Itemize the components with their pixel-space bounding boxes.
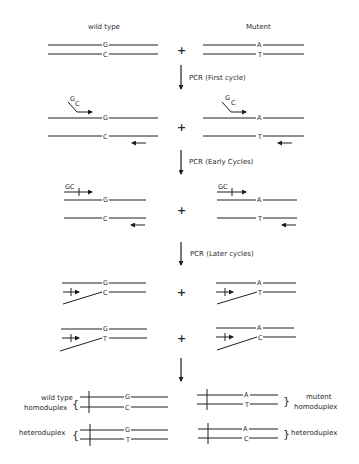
wt-heteroduplex-label: heteroduplex (19, 429, 65, 437)
mutant-homoduplex-label-line2: homoduplex (294, 403, 337, 411)
row5-mutant-duplex: A C (216, 324, 296, 350)
base-label: C (103, 133, 108, 141)
plus-sign: + (177, 286, 186, 299)
mismatch-primer-arrow-icon (68, 102, 92, 112)
base-label: T (125, 436, 130, 444)
primer-tail-bases: GC (218, 183, 228, 191)
step-label-later-cycles: PCR (Later cycles) (190, 250, 254, 258)
base-label: C (244, 435, 249, 443)
base-label: A (257, 41, 262, 49)
row4-mutant-duplex: A T (216, 279, 296, 304)
base-label: C (258, 334, 263, 342)
base-label: G (125, 426, 130, 434)
wt-homoduplex-label-line2: homoduplex (24, 404, 67, 412)
base-label: G (103, 41, 108, 49)
row4-wild-type-duplex: G C (62, 279, 146, 304)
wt-homoduplex-label-line1: wild type (41, 394, 73, 402)
mutant-header: Mutent (246, 23, 271, 31)
row1-wild-type-duplex: G C (48, 41, 158, 59)
base-label: T (257, 289, 262, 297)
base-label: A (257, 196, 262, 204)
row1-mutant-duplex: A T (203, 41, 304, 59)
plus-sign: + (177, 332, 186, 345)
base-label: G (103, 325, 108, 333)
plus-sign: + (177, 44, 186, 57)
row2-mutant-duplex: G C A T (203, 94, 304, 143)
base-label: C (103, 51, 108, 59)
row3-wild-type-duplex: GC G C (64, 183, 146, 225)
row3-mutant-duplex: GC A T (217, 183, 297, 225)
plus-sign: + (177, 204, 186, 217)
base-label: A (243, 425, 248, 433)
primer-tail-base: C (231, 99, 236, 107)
base-label: T (244, 401, 249, 409)
left-brace: { (72, 398, 79, 411)
base-label: A (257, 279, 262, 287)
left-brace: { (72, 429, 79, 442)
primer-tail-base: C (75, 100, 80, 108)
wild-type-header: wild type (88, 23, 120, 31)
mutant-heteroduplex: A C } heteroduplex (198, 423, 337, 444)
mutant-homoduplex: A T } mutent homoduplex (197, 389, 337, 411)
mutant-heteroduplex-label: heteroduplex (291, 429, 337, 437)
base-label: G (125, 393, 130, 401)
step-label-first-cycle: PCR (First cycle) (189, 74, 246, 82)
base-label: G (103, 279, 108, 287)
row5-wild-type-duplex: G T (60, 325, 147, 351)
step-label-early-cycles: PCR (Early Cycles) (189, 158, 254, 166)
row2-wild-type-duplex: G C G C (48, 95, 158, 143)
right-brace: } (283, 395, 290, 408)
base-label: G (103, 196, 108, 204)
base-label: A (257, 114, 262, 122)
wild-type-heteroduplex: heteroduplex { G T (19, 424, 168, 446)
base-label: T (257, 215, 262, 223)
mutant-homoduplex-label-line1: mutent (306, 393, 332, 401)
wild-type-homoduplex: wild type homoduplex { G C (24, 391, 168, 413)
base-label: C (103, 215, 108, 223)
primer-tail-base: G (225, 94, 230, 102)
base-label: C (125, 404, 130, 412)
base-label: A (257, 324, 262, 332)
base-label: C (103, 289, 108, 297)
base-label: T (102, 335, 107, 343)
plus-sign: + (177, 121, 186, 134)
primer-tail-bases: GC (65, 183, 75, 191)
base-label: T (257, 51, 262, 59)
base-label: G (103, 114, 108, 122)
right-brace: } (283, 428, 290, 441)
pcr-heteroduplex-diagram: wild type Mutent G C + A T PCR (First cy… (0, 0, 359, 464)
base-label: A (244, 391, 249, 399)
base-label: T (257, 133, 262, 141)
